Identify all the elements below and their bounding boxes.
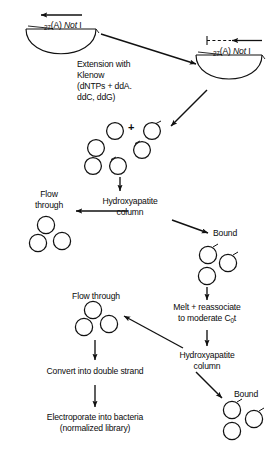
melt-label-line2: to moderate C0t xyxy=(145,313,269,324)
plus-sign: + xyxy=(128,122,134,132)
extension-caption-line1: Extension with xyxy=(77,59,130,69)
template-left-label: 27(A) Not I xyxy=(44,20,81,31)
electroporate-label-line2: (normalized library) xyxy=(6,423,184,433)
template-left-enzyme: I xyxy=(79,20,81,30)
extension-caption-line2: Klenow xyxy=(77,70,104,80)
flow-through-2-label: Flow through xyxy=(55,291,137,301)
template-left-sub: 27 xyxy=(44,24,51,31)
flow-through-1-circles xyxy=(29,216,70,251)
template-right-italic: Not xyxy=(233,46,246,56)
template-right-rest: (A) xyxy=(220,46,231,56)
melt-cot-sub: 0 xyxy=(230,317,233,324)
melt-cot-post: t xyxy=(234,313,236,323)
bound-1-label: Bound xyxy=(213,228,237,238)
template-right-sub: 27 xyxy=(213,50,220,57)
bound-2-label: Bound xyxy=(234,389,258,399)
template-left-italic: Not xyxy=(64,20,77,30)
hydroxyapatite-1-label-line2: column xyxy=(86,207,174,217)
convert-label: Convert into double strand xyxy=(9,366,181,376)
diagram-vector-layer xyxy=(0,0,277,450)
hydroxyapatite-1-label-line1: Hydroxyapatite xyxy=(86,196,174,206)
hydroxyapatite-2-label-line1: Hydroxyapatite xyxy=(163,350,251,360)
template-left-rest: (A) xyxy=(51,20,62,30)
template-right-enzyme: I xyxy=(248,46,250,56)
arrow-to-fragments xyxy=(171,90,207,126)
extension-caption-line3: (dNTPs + ddA. xyxy=(77,81,132,91)
arrow-to-bound-2 xyxy=(196,372,222,398)
arrow-to-bound-1 xyxy=(172,220,208,233)
electroporate-label-line1: Electroporate into bacteria xyxy=(6,412,184,422)
melt-cot-pre: to moderate C xyxy=(178,313,231,323)
flow-through-1-label-line2: through xyxy=(19,200,79,210)
diagram-canvas: 27(A) Not I 27(A) Not I Extension with K… xyxy=(0,0,277,450)
flow-through-2-circles xyxy=(75,301,117,335)
bound-1-circles xyxy=(198,244,238,285)
template-right-label: 27(A) Not I xyxy=(213,46,250,57)
bound-2-circles xyxy=(223,399,264,440)
melt-label-line1: Melt + reassociate xyxy=(145,302,269,312)
arrow-template-right-top xyxy=(207,36,262,45)
fragment-circle-cluster xyxy=(85,121,161,174)
extension-caption-line4: ddC, ddG) xyxy=(77,92,115,102)
flow-through-1-label-line1: Flow xyxy=(19,189,79,199)
